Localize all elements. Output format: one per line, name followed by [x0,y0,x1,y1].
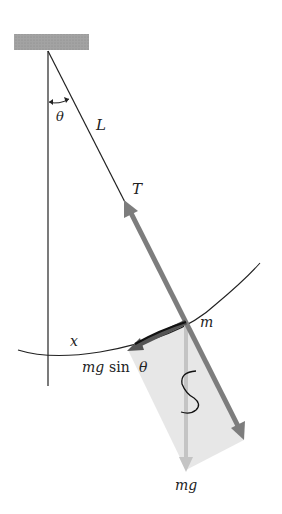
restoring-force-label: mg sin θ [82,359,148,375]
mass-label: m [200,314,213,330]
svg-text:mg: mg [82,359,104,375]
displacement-label: x [70,333,78,349]
ceiling-support [14,34,89,50]
svg-text:θ: θ [139,359,148,375]
weight-label: mg [175,477,197,493]
tension-label: T [132,180,143,198]
theta-angle-marker [49,97,69,105]
svg-text:sin: sin [109,359,130,375]
length-label: L [95,116,106,134]
pendulum-diagram: θ L T m x mg sin θ mg [0,0,282,514]
theta-label: θ [56,109,64,124]
